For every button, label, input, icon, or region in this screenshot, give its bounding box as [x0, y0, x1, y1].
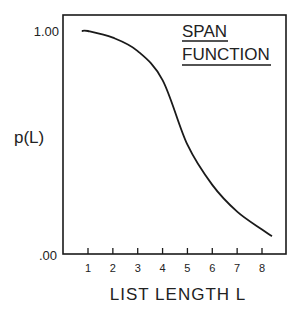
y-axis-label: p(L)	[14, 128, 44, 147]
x-tick-label: 6	[209, 262, 215, 274]
x-tick-label: 8	[259, 262, 265, 274]
x-tick-label: 2	[110, 262, 116, 274]
x-tick-label: 4	[160, 262, 166, 274]
x-tick-label: 1	[85, 262, 91, 274]
x-tick-label: 3	[135, 262, 141, 274]
y-tick-bottom: .00	[39, 248, 57, 263]
x-tick-label: 7	[234, 262, 240, 274]
x-axis-label: LIST LENGTH L	[110, 285, 246, 304]
title-line1: SPAN	[182, 22, 227, 41]
y-tick-top: 1.00	[34, 24, 59, 39]
x-axis-ticks	[88, 248, 262, 254]
span-function-chart: 12345678 1.00 .00 p(L) SPAN FUNCTION LIS…	[0, 0, 300, 313]
x-tick-label: 5	[184, 262, 190, 274]
x-axis-tick-labels: 12345678	[85, 262, 265, 274]
title-line2: FUNCTION	[182, 45, 270, 64]
